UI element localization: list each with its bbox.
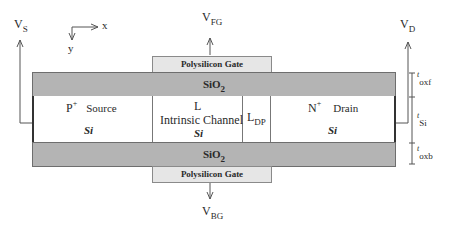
- source-voltage-label: VS: [14, 17, 28, 32]
- front-oxide-thickness-label: toxf: [417, 71, 431, 83]
- source-channel-boundary: [152, 96, 153, 143]
- front-oxide-layer: SiO2: [32, 72, 396, 97]
- back-oxide-thickness-label: toxb: [417, 145, 433, 157]
- drain-voltage-label: VD: [400, 17, 415, 32]
- silicon-thickness-label: tSi: [417, 112, 427, 124]
- y-axis-label: y: [68, 42, 74, 54]
- channel-name-label: Intrinsic Channel: [160, 113, 243, 128]
- back-polysilicon-gate: Polysilicon Gate: [152, 166, 272, 183]
- depletion-drain-boundary: [270, 96, 271, 143]
- channel-length-label: L: [194, 99, 201, 114]
- depletion-length-label: LDP: [247, 110, 266, 125]
- back-oxide-layer: SiO2: [32, 142, 396, 167]
- front-gate-voltage-label: VFG: [202, 10, 222, 25]
- drain-region-label: N+ Drain: [308, 101, 358, 116]
- x-axis-label: x: [102, 19, 108, 31]
- source-region-label: P+ Source: [66, 101, 117, 116]
- source-material-label: Si: [84, 124, 93, 136]
- drain-material-label: Si: [328, 124, 337, 136]
- back-gate-voltage-label: VBG: [202, 204, 223, 219]
- front-polysilicon-gate: Polysilicon Gate: [152, 56, 272, 73]
- channel-material-label: Si: [194, 127, 203, 139]
